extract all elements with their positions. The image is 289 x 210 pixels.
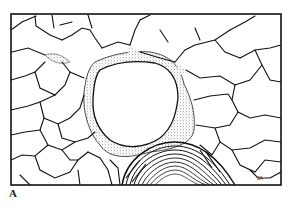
lung-tissue-illustration xyxy=(0,0,289,210)
artist-initials: JA xyxy=(257,175,263,181)
panel-label: A xyxy=(9,187,17,199)
tissue-drawing xyxy=(11,15,281,185)
